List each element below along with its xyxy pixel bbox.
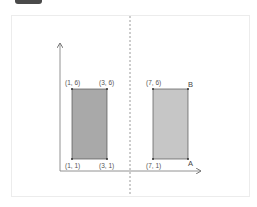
vertex-dot	[71, 88, 73, 90]
vertex-dot	[71, 158, 73, 160]
label-3-6: (3, 6)	[99, 79, 114, 87]
label-a: A	[188, 159, 193, 168]
image-rectangle	[153, 89, 188, 159]
reflection-diagram: (1, 6) (3, 6) (1, 1) (3, 1) (7, 6) B (7,…	[0, 0, 257, 207]
label-b: B	[188, 80, 193, 89]
original-rectangle	[72, 89, 107, 159]
label-7-1: (7, 1)	[146, 162, 161, 170]
vertex-dot	[106, 88, 108, 90]
vertex-dot	[152, 158, 154, 160]
vertex-dot	[152, 88, 154, 90]
label-1-1: (1, 1)	[65, 162, 80, 170]
label-7-6: (7, 6)	[146, 79, 161, 87]
vertex-dot	[106, 158, 108, 160]
label-3-1: (3, 1)	[99, 162, 114, 170]
label-1-6: (1, 6)	[65, 79, 80, 87]
